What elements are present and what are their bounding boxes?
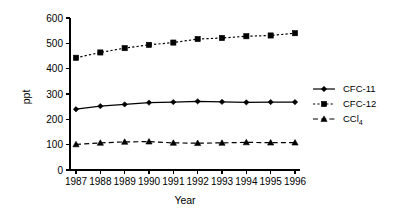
x-tick-label: 1994 [235,176,258,187]
y-tick-label: 500 [46,38,63,49]
marker-square [268,33,273,38]
y-tick-label: 200 [46,114,63,125]
series-2 [73,31,297,61]
legend-label: CFC-12 [343,98,376,109]
legend-item-2[interactable]: CFC-12 [313,98,376,109]
series-line [76,33,295,58]
legend-label: CFC-11 [343,83,376,94]
y-tick-label: 400 [46,63,63,74]
marker-square [73,55,78,60]
x-axis-title: Year [174,194,196,206]
series-line [76,142,295,145]
marker-square [195,36,200,41]
y-tick-label: 300 [46,89,63,100]
legend-label: CCl4 [343,113,363,126]
x-tick-label: 1996 [284,176,307,187]
line-chart: 0100200300400500600 19871988198919901991… [0,0,400,212]
marker-square [171,40,176,45]
x-tick-label: 1991 [162,176,185,187]
x-tick-label: 1990 [138,176,161,187]
marker-diamond [244,100,249,105]
marker-square [146,42,151,47]
legend-item-1[interactable]: CFC-11 [313,83,376,94]
series-3 [73,139,298,147]
marker-diamond [292,99,297,104]
marker-square [244,34,249,39]
chart-container: 0100200300400500600 19871988198919901991… [0,0,400,212]
legend-item-3[interactable]: CCl4 [313,113,363,126]
y-axis: 0100200300400500600 [46,13,70,176]
legend: CFC-11CFC-12CCl4 [313,83,376,126]
x-axis: 1987198819891990199119921993199419951996 [65,170,307,187]
marker-diamond [146,100,151,105]
series-line [76,101,295,109]
marker-square [122,46,127,51]
y-axis-title: ppt [20,90,32,105]
marker-diamond [219,99,224,104]
x-tick-label: 1987 [65,176,88,187]
marker-diamond [268,99,273,104]
y-tick-label: 100 [46,139,63,150]
x-tick-label: 1995 [260,176,283,187]
series-1 [73,99,297,112]
marker-diamond [98,103,103,108]
y-tick-label: 0 [57,165,63,176]
marker-square [219,35,224,40]
marker-diamond [171,99,176,104]
marker-diamond [321,86,326,91]
series-layer [73,31,298,147]
marker-diamond [122,102,127,107]
x-tick-label: 1989 [114,176,137,187]
x-tick-label: 1993 [211,176,234,187]
marker-diamond [73,107,78,112]
x-tick-label: 1992 [187,176,210,187]
x-tick-label: 1988 [89,176,112,187]
marker-square [98,50,103,55]
marker-square [292,31,297,36]
y-tick-label: 600 [46,13,63,24]
marker-square [321,101,326,106]
marker-diamond [195,99,200,104]
